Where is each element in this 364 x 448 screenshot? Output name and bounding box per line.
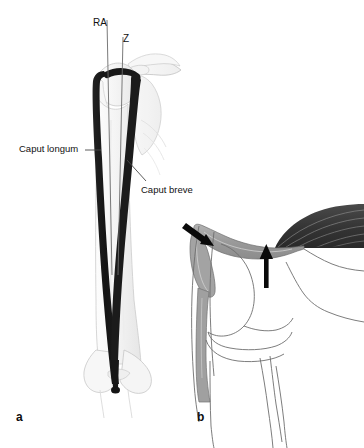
annotation-caput-breve: Caput breve bbox=[141, 185, 193, 195]
panel-letter-a: a bbox=[16, 411, 23, 423]
joint-bone-outlines bbox=[192, 226, 364, 448]
panel-b-illustration bbox=[180, 206, 364, 448]
axis-label-z: Z bbox=[123, 34, 129, 44]
axis-label-ra: RA bbox=[93, 18, 107, 28]
panel-a-illustration bbox=[0, 0, 200, 448]
panel-letter-b: b bbox=[197, 411, 204, 423]
annotation-caput-longum: Caput longum bbox=[19, 144, 78, 154]
anatomical-figure: RA Z Caput longum Caput breve a b bbox=[0, 0, 364, 448]
panel-b-lateral-view bbox=[180, 206, 364, 448]
panel-a-frontal-view bbox=[0, 0, 200, 448]
muscle-belly-striated bbox=[275, 204, 364, 253]
